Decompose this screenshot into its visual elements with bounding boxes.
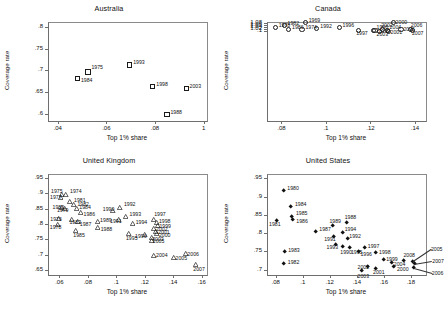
plot-area: 198419751993199820031988	[48, 22, 208, 122]
x-tick-label: .1	[314, 125, 338, 131]
data-point-label: 1989	[329, 219, 341, 224]
data-point-label: 2003	[190, 84, 202, 89]
y-tick	[264, 270, 267, 271]
data-point-marker	[85, 69, 90, 74]
plot-area: 1982197819861974199219691996199719981999…	[267, 22, 427, 122]
data-point-marker	[344, 220, 349, 225]
data-point-label: 1992	[320, 24, 332, 29]
y-tick	[264, 25, 267, 26]
data-point-marker	[78, 210, 83, 215]
data-point-label: 1992	[124, 202, 136, 207]
data-point-label: 1988	[101, 227, 113, 232]
x-tick	[116, 275, 117, 278]
y-tick	[264, 29, 267, 30]
y-tick-label: .7	[219, 266, 262, 272]
x-tick	[106, 121, 107, 124]
label-leader-line	[413, 250, 431, 262]
data-point-label: 1994	[136, 220, 148, 225]
y-tick	[45, 178, 48, 179]
x-tick-label: .14	[345, 279, 369, 285]
plot-area: 1980198419851986198119831982198719891988…	[267, 174, 427, 276]
data-point-label: 1998	[156, 82, 168, 87]
x-tick-label: .08	[143, 125, 167, 131]
data-point-label: 1981	[269, 222, 281, 227]
y-tick-label: .6	[0, 110, 43, 116]
panel-canada: Canada1982197819861974199219691996199719…	[219, 4, 437, 154]
data-point-marker	[362, 246, 367, 251]
data-point-label: 1986	[296, 219, 308, 224]
data-point-label: 1992	[349, 234, 361, 239]
data-point-marker	[299, 27, 304, 32]
x-tick	[88, 275, 89, 278]
data-point-label: 1993	[327, 245, 339, 250]
data-point-label: 1993	[130, 212, 142, 217]
panel-title: United Kingdom	[0, 156, 218, 165]
data-point-label: 1982	[288, 260, 300, 265]
data-point-label: 2000	[396, 20, 408, 25]
y-tick	[264, 31, 267, 32]
y-tick	[45, 209, 48, 210]
x-tick	[58, 121, 59, 124]
x-tick-label: .18	[399, 279, 423, 285]
data-point-marker	[313, 229, 318, 234]
data-point-marker	[150, 84, 155, 89]
x-tick	[204, 121, 205, 124]
data-point-label: 2006	[411, 23, 423, 28]
x-tick-label: .06	[47, 279, 71, 285]
x-tick-label: .06	[94, 125, 118, 131]
data-point-marker	[314, 26, 319, 31]
y-tick-label: .9	[0, 189, 43, 195]
data-point-marker	[273, 25, 278, 30]
x-tick-label: .04	[46, 125, 70, 131]
data-point-label: 1997	[356, 31, 368, 36]
data-point-label: 1997	[368, 244, 380, 249]
data-point-label: 2004	[156, 253, 168, 258]
x-tick	[384, 275, 385, 278]
x-tick-label: .08	[76, 279, 100, 285]
y-tick	[264, 215, 267, 216]
y-tick	[45, 49, 48, 50]
data-point-marker	[95, 225, 100, 230]
x-tick-label: .12	[133, 279, 157, 285]
data-point-marker	[289, 204, 294, 209]
data-point-marker	[281, 262, 286, 267]
data-point-label: 2006	[432, 271, 444, 276]
data-point-label: 1978	[50, 225, 62, 230]
data-point-label: 1986	[84, 212, 96, 217]
x-axis-title: Top 1% share	[267, 288, 425, 295]
y-tick	[264, 178, 267, 179]
data-point-label: 1977	[50, 195, 62, 200]
data-point-label: 2007	[412, 31, 424, 36]
y-tick	[45, 114, 48, 115]
y-tick	[45, 224, 48, 225]
x-tick	[415, 121, 416, 124]
data-point-label: 1980	[287, 186, 299, 191]
panel-australia: Australia198419751993199820031988.6.65.7…	[0, 4, 218, 154]
data-point-label: 1988	[345, 215, 357, 220]
x-tick-label: .14	[161, 279, 185, 285]
x-tick-label: .08	[269, 125, 293, 131]
data-point-label: 2006	[187, 252, 199, 257]
data-point-label: 1990	[103, 207, 115, 212]
data-point-label: 1987	[80, 222, 92, 227]
x-tick	[357, 275, 358, 278]
data-point-marker	[95, 219, 100, 224]
data-point-marker	[286, 27, 291, 32]
data-point-label: 2005	[153, 239, 165, 244]
data-point-label: 2007	[193, 267, 205, 272]
data-point-marker	[75, 76, 80, 81]
data-point-label: 1996	[343, 23, 355, 28]
data-point-marker	[282, 249, 287, 254]
data-point-marker	[374, 251, 379, 256]
x-tick	[145, 275, 146, 278]
x-axis-title: Top 1% share	[48, 134, 206, 141]
y-tick	[45, 27, 48, 28]
panel-title: Canada	[219, 4, 437, 13]
y-tick	[45, 92, 48, 93]
data-point-marker	[130, 221, 135, 226]
x-tick	[411, 275, 412, 278]
y-axis-title: Coverage rate	[3, 196, 10, 252]
data-point-label: 1987	[319, 227, 331, 232]
x-tick	[59, 275, 60, 278]
x-tick-label: .08	[264, 279, 288, 285]
